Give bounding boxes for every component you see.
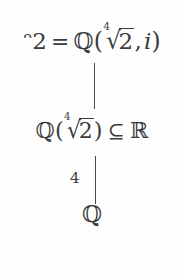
intermediate-field-expression: ℚ(4√2)⊆ℝ (36, 118, 149, 142)
open-paren: ( (55, 117, 64, 143)
open-paren: ( (94, 27, 103, 55)
fourth-root-of-two: 4√2 (64, 118, 94, 142)
diagram-node-intermediate-field: ℚ(4√2)⊆ℝ (0, 118, 184, 142)
reals-symbol: ℝ (130, 118, 148, 143)
rationals-symbol: ℚ (82, 201, 102, 227)
diagram-node-top-field: ᵔ2=ℚ(4√2,i) (0, 28, 184, 53)
rationals-symbol: ℚ (74, 28, 94, 54)
subset-symbol: ⊆ (103, 121, 130, 141)
edge-middle-to-bottom (95, 156, 96, 204)
radicand: 2 (79, 118, 94, 142)
diagram-node-base-field: ℚ (0, 203, 184, 226)
comma: , (134, 28, 143, 54)
edge-degree-label: 4 (70, 171, 80, 186)
close-paren: ) (94, 117, 103, 143)
field-extension-diagram: ᵔ2=ℚ(4√2,i) ℚ(4√2)⊆ℝ 4 ℚ (0, 0, 184, 275)
fourth-root-of-two: 4√2 (103, 28, 134, 53)
field-symbol-K: ᵔ2 (23, 28, 47, 54)
equals-sign: = (47, 31, 74, 53)
base-field-expression: ℚ (82, 203, 102, 226)
top-field-expression: ᵔ2=ℚ(4√2,i) (23, 28, 161, 53)
radicand: 2 (119, 28, 135, 53)
edge-top-to-middle (94, 63, 95, 109)
close-paren: ) (151, 27, 160, 55)
rationals-symbol: ℚ (36, 118, 55, 143)
